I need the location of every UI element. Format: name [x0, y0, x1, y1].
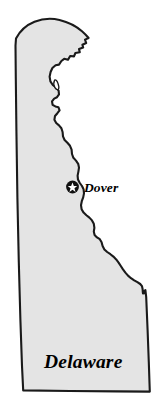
- coastal-inlet-shape: [54, 80, 59, 90]
- state-name-label: Delaware: [43, 351, 123, 372]
- dover-city-label: Dover: [83, 180, 119, 195]
- delaware-map-figure: Dover Delaware: [0, 0, 166, 412]
- delaware-state-outline: [16, 19, 150, 392]
- dover-capital-marker: [66, 181, 79, 194]
- delaware-map-svg: Dover Delaware: [0, 0, 166, 412]
